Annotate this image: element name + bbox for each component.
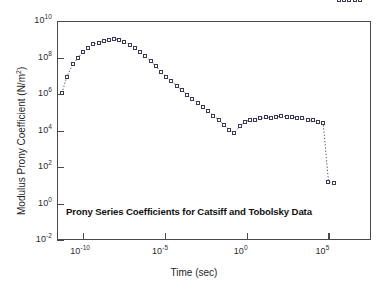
data-point-marker [243,120,247,124]
data-point-marker [175,84,179,88]
data-point-marker [227,128,231,132]
data-point-marker [279,114,283,118]
data-point-marker [332,181,336,185]
data-point-marker [342,0,346,2]
data-point-marker [285,115,289,119]
data-point-marker [306,118,310,122]
data-point-marker [217,118,221,122]
data-point-marker [97,41,101,45]
y-axis-label-main: Modulus Prony Coefficient (N/m [16,74,27,215]
data-point-marker [149,59,153,63]
data-point-marker [138,50,142,54]
data-point-marker [185,93,189,97]
data-point-marker [316,120,320,124]
data-point-marker [102,39,106,43]
data-point-marker [180,88,184,92]
data-point-marker [347,0,351,2]
chart-title-annotation: Prony Series Coefficients for Catsiff an… [66,206,312,217]
data-point-marker [290,115,294,119]
y-axis-label: Modulus Prony Coefficient (N/m2) [16,67,27,215]
data-point-marker [169,79,173,83]
data-point-marker [117,38,121,42]
x-axis-label: Time (sec) [0,267,388,278]
data-point-marker [274,115,278,119]
data-point-marker [196,101,200,105]
data-point-marker [248,118,252,122]
data-point-marker [86,46,90,50]
data-point-marker [159,70,163,74]
data-point-marker [253,118,257,122]
data-point-marker [321,121,325,125]
data-point-marker [206,109,210,113]
data-point-marker [211,114,215,118]
data-point-marker [133,46,137,50]
data-point-marker [222,123,226,127]
data-point-marker [122,40,126,44]
data-point-marker [358,0,362,2]
y-axis-label-close: ) [16,67,27,70]
data-point-marker [112,37,116,41]
data-point-marker [295,116,299,120]
data-point-marker [232,131,236,135]
data-point-marker [258,116,262,120]
data-point-marker [81,50,85,54]
data-point-marker [190,97,194,101]
data-point-marker [91,42,95,46]
data-point-marker [107,38,111,42]
data-point-marker [65,75,69,79]
data-point-marker [311,118,315,122]
data-point-marker [326,180,330,184]
data-point-marker [164,75,168,79]
data-point-marker [269,116,273,120]
data-point-marker [154,64,158,68]
data-point-marker [60,91,64,95]
data-point-marker [128,43,132,47]
data-point-marker [353,0,357,2]
data-point-marker [201,105,205,109]
chart-figure: 10-1010-5100105 101010810610410210010-2 … [0,0,388,292]
y-axis-label-exponent: 2 [15,70,22,74]
data-point-marker [143,54,147,58]
data-point-marker [300,116,304,120]
data-point-marker [337,0,341,2]
data-point-marker [264,115,268,119]
series-connector-line [0,0,388,292]
data-point-marker [76,56,80,60]
data-point-marker [71,62,75,66]
data-point-marker [238,124,242,128]
